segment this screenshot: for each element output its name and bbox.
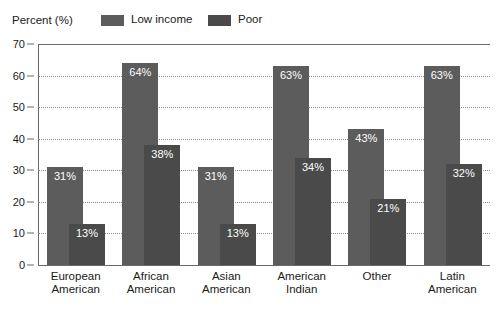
legend-item-low-income: Low income bbox=[101, 12, 192, 28]
x-axis-tick-label-line: Other bbox=[339, 270, 414, 283]
y-tick-mark bbox=[27, 170, 34, 171]
gridline bbox=[38, 139, 490, 140]
gridline bbox=[38, 44, 490, 45]
x-axis-tick-label-line: American bbox=[264, 270, 339, 283]
bar-value-label: 32% bbox=[446, 168, 482, 179]
y-tick-mark bbox=[27, 44, 34, 45]
x-axis-tick-label: AmericanIndian bbox=[264, 270, 339, 296]
x-axis-tick-label: LatinAmerican bbox=[415, 270, 490, 296]
bar-value-label: 63% bbox=[424, 70, 460, 81]
bar-group: 64%38% bbox=[122, 44, 180, 265]
y-tick-label: 30 bbox=[13, 165, 25, 176]
y-tick-mark bbox=[27, 265, 34, 266]
bar-poor: 21% bbox=[370, 199, 406, 265]
y-tick-label: 10 bbox=[13, 228, 25, 239]
legend-swatch-poor bbox=[208, 15, 231, 26]
bar-group: 63%34% bbox=[273, 44, 331, 265]
legend-item-poor: Poor bbox=[208, 12, 262, 28]
legend-label-low-income: Low income bbox=[131, 14, 192, 26]
bar-value-label: 63% bbox=[273, 70, 309, 81]
y-tick-mark bbox=[27, 107, 34, 108]
y-tick-label: 20 bbox=[13, 196, 25, 207]
bar-value-label: 64% bbox=[122, 67, 158, 78]
bar-group: 43%21% bbox=[348, 44, 406, 265]
bar-value-label: 31% bbox=[198, 171, 234, 182]
y-tick-label: 70 bbox=[13, 39, 25, 50]
chart-legend: Percent (%) Low income Poor bbox=[0, 12, 500, 32]
y-tick-label: 50 bbox=[13, 102, 25, 113]
bar-value-label: 43% bbox=[348, 133, 384, 144]
x-axis-tick-label-line: American bbox=[189, 283, 264, 296]
gridline bbox=[38, 107, 490, 108]
x-axis-tick-label: AfricanAmerican bbox=[113, 270, 188, 296]
bar-poor: 13% bbox=[220, 224, 256, 265]
y-tick-label: 60 bbox=[13, 70, 25, 81]
y-axis: 010203040506070 bbox=[0, 44, 34, 266]
plot-area: 31%13%64%38%31%13%63%34%43%21%63%32% bbox=[38, 44, 490, 266]
bar-poor: 13% bbox=[69, 224, 105, 265]
bar-group: 63%32% bbox=[424, 44, 482, 265]
y-tick-mark bbox=[27, 138, 34, 139]
legend-label-poor: Poor bbox=[238, 14, 262, 26]
bar-value-label: 13% bbox=[69, 228, 105, 239]
gridline bbox=[38, 170, 490, 171]
x-axis-labels: EuropeanAmericanAfricanAmericanAsianAmer… bbox=[38, 270, 490, 310]
bar-group: 31%13% bbox=[198, 44, 256, 265]
y-tick-mark bbox=[27, 75, 34, 76]
bar-value-label: 34% bbox=[295, 162, 331, 173]
bar-poor: 32% bbox=[446, 164, 482, 265]
bar-poor: 38% bbox=[144, 145, 180, 265]
bar-poor: 34% bbox=[295, 158, 331, 265]
bar-chart: Percent (%) Low income Poor 010203040506… bbox=[0, 0, 500, 312]
x-axis-line bbox=[38, 265, 490, 266]
y-tick-mark bbox=[27, 233, 34, 234]
y-tick-label: 0 bbox=[19, 260, 25, 271]
x-axis-tick-label-line: Latin bbox=[415, 270, 490, 283]
x-axis-tick-label-line: American bbox=[113, 283, 188, 296]
x-axis-tick-label: EuropeanAmerican bbox=[38, 270, 113, 296]
x-axis-tick-label-line: American bbox=[38, 283, 113, 296]
bar-value-label: 38% bbox=[144, 149, 180, 160]
x-axis-tick-label-line: American bbox=[415, 283, 490, 296]
bar-value-label: 21% bbox=[370, 203, 406, 214]
x-axis-tick-label: AsianAmerican bbox=[189, 270, 264, 296]
x-axis-tick-label-line: Asian bbox=[189, 270, 264, 283]
x-axis-tick-label-line: Indian bbox=[264, 283, 339, 296]
y-tick-mark bbox=[27, 201, 34, 202]
bar-value-label: 13% bbox=[220, 228, 256, 239]
x-axis-tick-label: Other bbox=[339, 270, 414, 283]
x-axis-tick-label-line: African bbox=[113, 270, 188, 283]
gridline bbox=[38, 202, 490, 203]
x-axis-tick-label-line: European bbox=[38, 270, 113, 283]
gridline bbox=[38, 233, 490, 234]
bar-group: 31%13% bbox=[47, 44, 105, 265]
gridline bbox=[38, 76, 490, 77]
legend-swatch-low-income bbox=[101, 15, 124, 26]
y-tick-label: 40 bbox=[13, 133, 25, 144]
y-axis-title: Percent (%) bbox=[12, 14, 73, 26]
bar-value-label: 31% bbox=[47, 171, 83, 182]
